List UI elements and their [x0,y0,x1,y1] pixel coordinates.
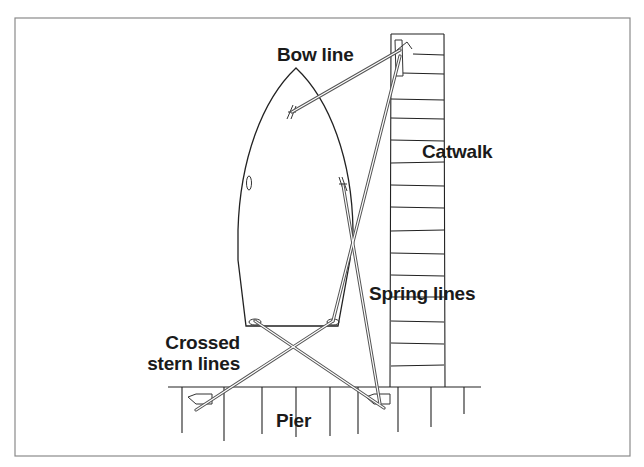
spring-lines-label: Spring lines [369,283,475,304]
catwalk-label: Catwalk [422,141,492,162]
catwalk [390,34,445,387]
diagram-canvas [0,0,644,467]
bow-line-label: Bow line [277,44,354,65]
pier-label: Pier [276,410,311,431]
mooring-diagram: Bow line Catwalk Spring lines Crossed st… [0,0,644,467]
pier [168,387,481,441]
crossed-stern-lines-label-line2: stern lines [133,353,240,374]
crossed-stern-lines-label-line1: Crossed [133,332,240,353]
